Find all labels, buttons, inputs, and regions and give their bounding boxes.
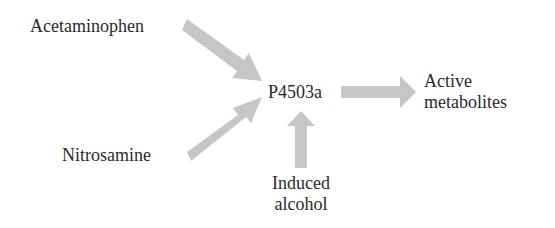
- node-enzyme-p4503a: P4503a: [268, 82, 322, 103]
- product-label-line1: Active: [424, 71, 507, 92]
- node-induced-alcohol: Induced alcohol: [263, 173, 339, 215]
- arrow-acetaminophen-to-enzyme: [182, 19, 262, 81]
- arrow-alcohol-to-enzyme: [287, 111, 315, 168]
- product-label-line2: metabolites: [424, 92, 507, 113]
- node-active-metabolites: Active metabolites: [424, 71, 507, 113]
- node-nitrosamine: Nitrosamine: [62, 145, 151, 166]
- inducer-label-line2: alcohol: [263, 194, 339, 215]
- arrow-enzyme-to-metabolites: [341, 76, 416, 108]
- node-acetaminophen: Acetaminophen: [30, 16, 144, 37]
- arrow-nitrosamine-to-enzyme: [187, 97, 262, 161]
- inducer-label-line1: Induced: [263, 173, 339, 194]
